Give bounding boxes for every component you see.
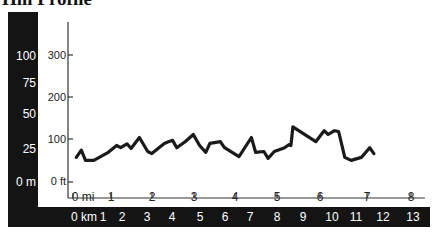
elevation-line [76,127,374,160]
mile-ticks [73,193,411,198]
elevation-plot [0,0,439,239]
feet-ticks [68,55,73,182]
